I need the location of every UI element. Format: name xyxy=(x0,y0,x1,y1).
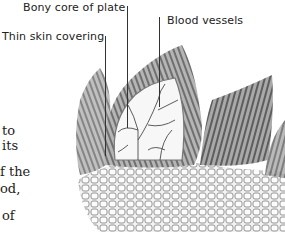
leader-line-bony-core xyxy=(127,6,128,128)
label-blood-vessels: Blood vessels xyxy=(167,14,243,27)
label-bony-core: Bony core of plate xyxy=(23,1,125,14)
body-text-line: f the xyxy=(0,163,30,180)
leader-line-thin-skin xyxy=(105,36,106,156)
body-text-line: of xyxy=(2,207,15,224)
label-thin-skin: Thin skin covering xyxy=(2,30,104,43)
leader-line-blood-vessels xyxy=(159,17,160,107)
body-text-line: od, xyxy=(0,180,20,197)
body-text-line: its xyxy=(2,137,18,154)
